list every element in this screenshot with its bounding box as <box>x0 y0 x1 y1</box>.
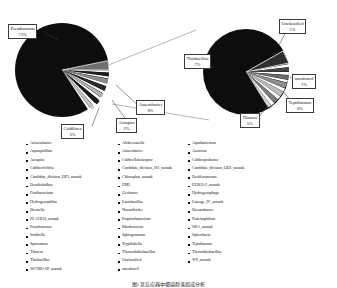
callout-caldilinea-name: Caldilinea <box>64 126 82 131</box>
legend-bullet-icon <box>118 169 120 171</box>
legend-item-label: Caldicoprobacter <box>192 158 218 162</box>
legend-bullet-icon <box>118 236 120 238</box>
callout-pseudomonas-value: 73% <box>11 32 35 37</box>
legend-item[interactable]: WCHB1-69_norank <box>26 267 118 275</box>
legend-item-label: Aquaspirillum <box>30 149 52 153</box>
callout-thiobacillus-name: Thiobacillus <box>187 56 209 61</box>
legend-item-label: Geobacter <box>122 191 138 195</box>
callout-uncultured-name: uncultured <box>295 76 314 81</box>
callout-thauera[interactable]: Thauera 5% <box>240 113 260 128</box>
legend-item-label: Trypillohella <box>122 242 142 246</box>
legend-item-label: Proteiniphilum <box>192 217 215 221</box>
legend-item-label: Candidate_division_OP3_norank <box>30 175 81 179</box>
legend-bullet-icon <box>188 144 190 146</box>
legend-bullet-icon <box>26 244 28 246</box>
legend-item-label: Pseudomonas <box>30 225 51 229</box>
callout-tepidimonas[interactable]: Tepidimonas 6% <box>286 98 314 113</box>
legend-item-label: WCHB1-69_norank <box>30 267 62 271</box>
legend-bullet-icon <box>188 228 190 230</box>
legend-bullet-icon <box>118 219 120 221</box>
callout-pseudomonas-name: Pseudomonas <box>11 26 35 31</box>
legend-item-label: Sporomusa <box>30 242 48 246</box>
legend-item[interactable]: uncultured <box>118 267 188 275</box>
legend-bullet-icon <box>188 261 190 263</box>
legend-bullet-icon <box>118 202 120 204</box>
callout-caldilinea[interactable]: Caldilinea 3% <box>61 124 84 139</box>
callout-azospira-name: Azospira <box>119 120 135 125</box>
legend-item-label: uncultured <box>122 267 138 271</box>
callout-uncultured[interactable]: uncultured 1% <box>292 74 316 89</box>
legend-bullet-icon <box>118 261 120 263</box>
legend-item-label: Dechloromonas <box>192 175 217 179</box>
legend-bullet-icon <box>26 228 28 230</box>
legend-item-label: Propionibacterium <box>122 217 151 221</box>
legend-item-label: Thauera <box>30 250 43 254</box>
legend-item-label: EM3 <box>122 183 130 187</box>
legend-bullet-icon <box>188 169 190 171</box>
legend-item-label: Alishewanella <box>122 141 144 145</box>
legend-item-label: Hydrogenophilus <box>30 200 57 204</box>
legend-bullet-icon <box>118 244 120 246</box>
legend-column-2: Alishewanella Anaerobacter Caldicellulos… <box>118 141 188 275</box>
legend-item-label: Candidate_division_OD1_norank <box>192 166 244 170</box>
legend-bullet-icon <box>26 160 28 162</box>
callout-azospira[interactable]: Azospira 2% <box>116 118 137 133</box>
legend-bullet-icon <box>188 253 190 255</box>
legend-bullet-icon <box>26 144 28 146</box>
figure-caption: 图1 某反应器中细菌群落组成分析 <box>0 280 337 287</box>
callout-anaerobacter[interactable]: Anaerobacter 6% <box>136 100 165 115</box>
callout-pseudomonas[interactable]: Pseudomonas 73% <box>8 24 37 39</box>
legend-item-label: Azoarcus <box>192 149 207 153</box>
legend-item-label: Desulfobulbus <box>30 183 52 187</box>
legend-item-label: Azospira <box>30 158 44 162</box>
callout-anaerobacter-value: 6% <box>139 108 163 113</box>
legend-bullet-icon <box>188 244 190 246</box>
legend-bullet-icon <box>26 269 28 271</box>
legend-bullet-icon <box>118 186 120 188</box>
callout-caldilinea-value: 3% <box>64 132 82 137</box>
legend-item-label: Acinetobacter <box>30 141 52 145</box>
legend-bullet-icon <box>118 144 120 146</box>
legend-item-label: W9_norank <box>192 258 210 262</box>
callout-tepidimonas-value: 6% <box>289 106 312 111</box>
legend-item-label: Ferribacterium <box>30 191 53 195</box>
callout-uncultured-value: 1% <box>295 82 314 87</box>
legend-item-label: EUB33-2_norank <box>192 183 220 187</box>
legend-item-label: Calditerrivibrio <box>30 166 54 170</box>
legend-bullet-icon <box>26 261 28 263</box>
legend-item-label: Spirochaeta <box>192 233 210 237</box>
legend-item-label: Candidate_division_JS1_norank <box>122 166 172 170</box>
legend-bullet-icon <box>26 186 28 188</box>
callout-thiobacillus[interactable]: Thiobacillus 7% <box>184 54 211 69</box>
legend-bullet-icon <box>188 211 190 213</box>
legend-item-label: Unclassified <box>122 258 141 262</box>
callout-unclassified-value: 1% <box>282 27 304 32</box>
legend-column-3: Aquabacterium Azoarcus Caldicoprobacter … <box>188 141 276 275</box>
legend-item-label: Nocardioides <box>122 208 143 212</box>
legend-bullet-icon <box>26 253 28 255</box>
legend-bullet-icon <box>118 160 120 162</box>
legend-bullet-icon <box>118 152 120 154</box>
legend-bullet-icon <box>188 186 190 188</box>
legend-item-label: Smithella <box>30 233 45 237</box>
legend-bullet-icon <box>118 194 120 196</box>
legend-column-1: Acinetobacter Aquaspirillum Azospira Cal… <box>26 141 118 275</box>
legend-item[interactable]: W9_norank <box>188 258 276 266</box>
legend-item-label: Rhodococcus <box>122 225 143 229</box>
legend-bullet-icon <box>26 236 28 238</box>
legend-bullet-icon <box>118 228 120 230</box>
callout-unclassified[interactable]: Unclassified 1% <box>279 19 306 34</box>
legend-item-label: Chloroplast_norank <box>122 175 153 179</box>
legend-bullet-icon <box>26 152 28 154</box>
legend-bullet-icon <box>118 211 120 213</box>
legend-bullet-icon <box>26 194 28 196</box>
legend-item-label: Aquabacterium <box>192 141 216 145</box>
legend-bullet-icon <box>188 202 190 204</box>
exploded-pie-group <box>203 29 289 115</box>
legend-bullet-icon <box>188 177 190 179</box>
legend-bullet-icon <box>26 211 28 213</box>
legend-item-label: Oceanobacter <box>192 208 213 212</box>
legend-bullet-icon <box>188 160 190 162</box>
legend-item-label: Thermoluthiobacillus <box>122 250 155 254</box>
legend-item-label: Thermithiobacillus <box>192 250 221 254</box>
